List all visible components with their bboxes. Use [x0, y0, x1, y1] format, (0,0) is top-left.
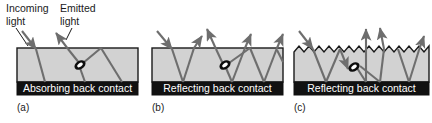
- emitted-light-leader-line: [66, 28, 72, 40]
- panel-b-contact-label: Reflecting back contact: [163, 82, 272, 94]
- panel-b: Reflecting back contact: [152, 29, 283, 113]
- incoming-light-label-line1: Incoming: [6, 2, 49, 14]
- panel-c-caption: (c): [294, 102, 306, 113]
- incoming-light-label-line2: light: [6, 15, 25, 27]
- panel-c-contact-label: Reflecting back contact: [307, 82, 416, 94]
- callout-emitted-light: Emitted light: [60, 2, 96, 27]
- figure-canvas: Incoming light Emitted light Absorbing b…: [0, 0, 432, 123]
- panel-c: Reflecting back contact: [294, 28, 429, 113]
- callout-incoming-light: Incoming light: [6, 2, 49, 27]
- light-trapping-figure: Incoming light Emitted light Absorbing b…: [0, 0, 432, 123]
- panel-a-contact-label: Absorbing back contact: [23, 82, 132, 94]
- panel-a: Absorbing back contact: [17, 31, 138, 113]
- emitted-light-label-line2: light: [60, 15, 79, 27]
- panel-b-caption: (b): [152, 102, 164, 113]
- panel-a-caption: (a): [17, 102, 29, 113]
- emitted-light-label-line1: Emitted: [60, 2, 96, 14]
